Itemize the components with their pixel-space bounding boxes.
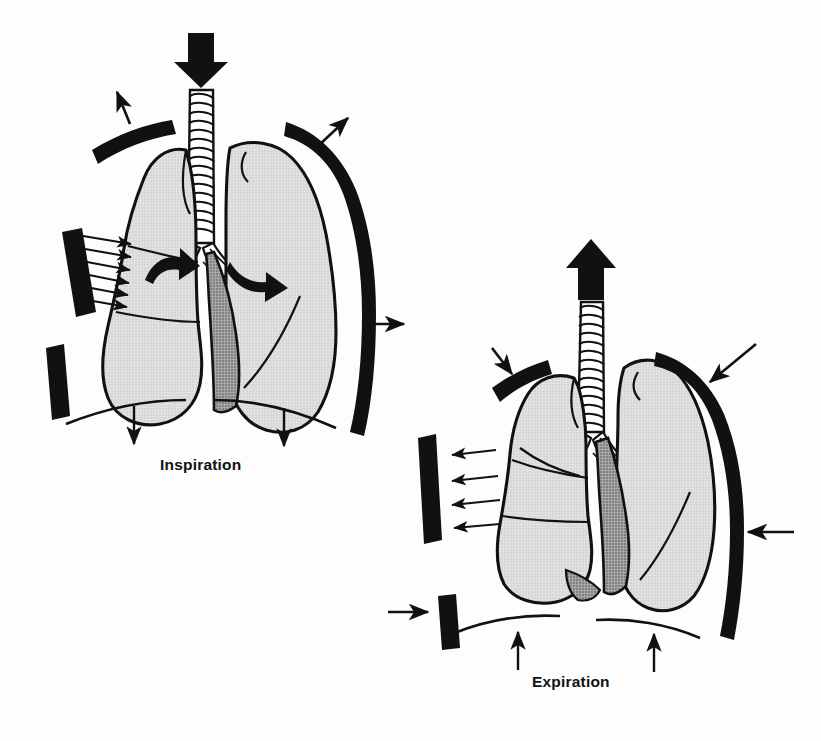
lung-left-inspiration xyxy=(103,149,202,425)
rib-arrow-upper-left-icon-expiration xyxy=(492,348,512,374)
airflow-in-arrow-icon xyxy=(174,33,228,88)
rib-lower-left-expiration xyxy=(438,594,460,650)
lung-left-expiration xyxy=(497,376,591,603)
caption-inspiration: Inspiration xyxy=(160,456,241,474)
rib-lateral-left-inspiration xyxy=(62,228,96,317)
airflow-out-arrow-icon xyxy=(566,239,616,300)
rib-arrow-upper-left-icon xyxy=(117,92,130,124)
diaphragm-expiration xyxy=(452,616,700,638)
rib-lateral-left-expiration xyxy=(418,434,442,544)
lung-diagram-canvas xyxy=(0,0,821,741)
panel-inspiration xyxy=(46,33,404,446)
intercostal-arrows-left-expiration xyxy=(452,450,500,528)
rib-lower-left-inspiration xyxy=(46,344,70,420)
lung-right-expiration xyxy=(616,360,715,611)
respiratory-mechanics-figure: Inspiration Expiration xyxy=(0,0,821,741)
panel-expiration xyxy=(388,239,794,672)
caption-expiration: Expiration xyxy=(532,673,610,691)
diaphragm-arrows-expiration xyxy=(518,632,654,672)
